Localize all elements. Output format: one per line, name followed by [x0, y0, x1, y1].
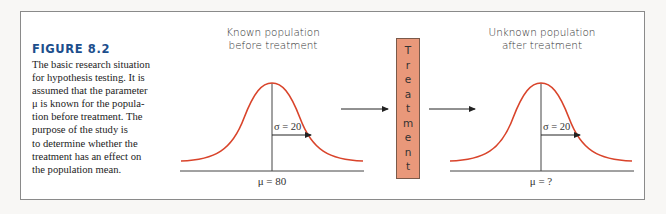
treatment-letter: m — [403, 118, 413, 129]
label-line: Unknown population — [489, 26, 596, 38]
right-sigma-label: σ = 20 — [543, 121, 570, 132]
treatment-box: T r e a t m e n t — [396, 38, 420, 179]
left-mean-label: μ = 80 — [242, 175, 302, 187]
treatment-letter: e — [405, 132, 411, 143]
right-population-label: Unknown population after treatment — [472, 26, 612, 52]
treatment-letter: e — [405, 74, 411, 85]
treatment-letter: t — [406, 161, 410, 172]
treatment-letter: n — [405, 147, 412, 158]
right-distribution — [450, 83, 634, 171]
right-mean-label: μ = ? — [511, 175, 571, 187]
label-line: before treatment — [229, 39, 318, 51]
label-line: Known population — [226, 26, 319, 38]
left-sigma-label: σ = 20 — [274, 121, 301, 132]
treatment-letter: r — [406, 60, 410, 71]
treatment-letter: a — [405, 89, 411, 100]
treatment-letter: t — [406, 103, 410, 114]
treatment-letter: T — [405, 45, 411, 56]
label-line: after treatment — [502, 39, 582, 51]
left-population-label: Known population before treatment — [208, 26, 338, 52]
left-distribution — [180, 83, 364, 171]
